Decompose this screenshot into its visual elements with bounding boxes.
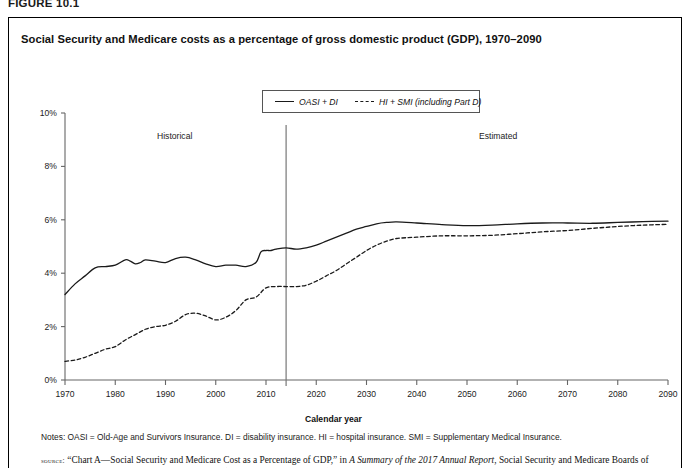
x-tick-label: 2060 bbox=[508, 389, 527, 399]
x-tick-label: 2090 bbox=[658, 389, 677, 399]
x-tick-label: 2080 bbox=[608, 389, 627, 399]
y-tick-label: 6% bbox=[45, 215, 58, 225]
annotation-historical: Historical bbox=[157, 131, 192, 141]
x-tick-label: 2030 bbox=[357, 389, 376, 399]
page-title: Social Security and Medicare costs as a … bbox=[21, 33, 667, 45]
series-line-2 bbox=[65, 224, 668, 361]
legend-solid-line-icon bbox=[275, 101, 294, 102]
x-tick-label: 2070 bbox=[558, 389, 577, 399]
legend-label-oasi-di: OASI + DI bbox=[299, 97, 338, 107]
x-tick-label: 1990 bbox=[156, 389, 175, 399]
source-text-italic: A Summary of the 2017 Annual Report bbox=[349, 455, 494, 465]
y-tick-label: 0% bbox=[45, 375, 58, 385]
line-chart-svg: 0%2%4%6%8%10%197019801990200020102020203… bbox=[9, 18, 683, 468]
y-tick-label: 2% bbox=[45, 322, 58, 332]
x-axis-title: Calendar year bbox=[305, 414, 362, 424]
x-tick-label: 2020 bbox=[307, 389, 326, 399]
x-tick-label: 2010 bbox=[256, 389, 275, 399]
legend-entry-oasi-di: OASI + DI bbox=[275, 97, 338, 107]
legend-dashed-line-icon bbox=[355, 101, 374, 102]
figure-source: source: “Chart A—Social Security and Med… bbox=[41, 454, 665, 468]
legend-label-hi-smi: HI + SMI (including Part D) bbox=[379, 97, 481, 107]
x-tick-label: 2050 bbox=[457, 389, 476, 399]
y-tick-label: 8% bbox=[45, 161, 58, 171]
figure-number: FIGURE 10.1 bbox=[8, 0, 79, 9]
series-line-1 bbox=[65, 221, 668, 294]
x-tick-label: 2000 bbox=[206, 389, 225, 399]
source-label: source: bbox=[41, 456, 65, 465]
figure-box: Social Security and Medicare costs as a … bbox=[8, 17, 682, 468]
y-tick-label: 10% bbox=[40, 108, 58, 118]
x-tick-label: 1970 bbox=[55, 389, 74, 399]
legend-entry-hi-smi: HI + SMI (including Part D) bbox=[355, 97, 481, 107]
annotation-estimated: Estimated bbox=[479, 131, 517, 141]
x-tick-label: 2040 bbox=[407, 389, 426, 399]
figure-notes: Notes: OASI = Old-Age and Survivors Insu… bbox=[41, 432, 667, 443]
source-text-part1: “Chart A—Social Security and Medicare Co… bbox=[67, 455, 347, 465]
plot-area: 0%2%4%6%8%10%197019801990200020102020203… bbox=[9, 18, 683, 468]
chart-legend: OASI + DI HI + SMI (including Part D) bbox=[262, 90, 480, 113]
x-tick-label: 1980 bbox=[106, 389, 125, 399]
y-tick-label: 4% bbox=[45, 268, 58, 278]
